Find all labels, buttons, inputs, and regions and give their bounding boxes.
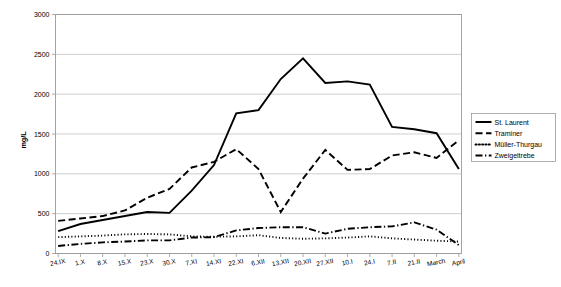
- y-tick-label: 500: [38, 210, 50, 217]
- y-tick-label: 2500: [34, 51, 50, 58]
- x-tick-label: 13.XII: [271, 257, 289, 267]
- x-tick-label: 21.II: [407, 257, 421, 266]
- x-tick-label: 27.XII: [316, 257, 334, 267]
- x-tick-label: 30.X: [162, 257, 177, 267]
- x-tick-label: 6.XII: [251, 257, 266, 266]
- line-chart: 050010001500200025003000 24.IX1.X8.X15.X…: [0, 0, 561, 287]
- chart-container: 050010001500200025003000 24.IX1.X8.X15.X…: [0, 0, 561, 287]
- x-tick-label: 14.XI: [205, 257, 222, 267]
- y-tick-label: 2000: [34, 91, 50, 98]
- x-tick-label: 23.X: [139, 257, 154, 267]
- x-tick-label: 8.X: [97, 258, 109, 267]
- x-tick-label: 10.I: [341, 258, 353, 267]
- legend-label-m-ller-thurgau: Müller-Thurgau: [495, 141, 543, 149]
- y-axis-title-label: mg/L: [19, 131, 28, 149]
- x-tick-label: 1.X: [74, 258, 86, 267]
- chart-legend: St. LaurentTraminerMüller-ThurgauZweigel…: [472, 114, 556, 162]
- y-tick-label: 1500: [34, 131, 50, 138]
- x-tick-label: 20.XII: [293, 257, 311, 267]
- x-axis-labels: 24.IX1.X8.X15.X23.X30.X7.XI14.XI22.XI6.X…: [49, 257, 466, 268]
- x-tick-label: March: [426, 257, 446, 267]
- x-tick-label: 22.XI: [228, 257, 245, 267]
- x-tick-label: 7.XI: [185, 257, 198, 266]
- series-line-m-ller-thurgau: [58, 234, 459, 242]
- x-tick-label: April: [451, 257, 466, 267]
- y-tick-label: 1000: [34, 170, 50, 177]
- y-axis-ticks: 050010001500200025003000: [34, 11, 56, 257]
- legend-label-st-laurent: St. Laurent: [495, 119, 529, 126]
- series-lines: [58, 58, 459, 246]
- series-line-st-laurent: [58, 58, 459, 231]
- x-tick-label: 24.I: [363, 258, 375, 267]
- x-tick-label: 15.X: [117, 257, 132, 267]
- series-line-traminer: [58, 140, 459, 220]
- y-tick-label: 0: [46, 250, 50, 257]
- x-tick-label: 24.IX: [49, 257, 66, 267]
- legend-label-zweigeltrebe: Zweigeltrebe: [495, 152, 535, 160]
- y-axis-title: mg/L: [19, 131, 28, 149]
- legend-label-traminer: Traminer: [495, 130, 523, 137]
- x-axis-ticks: [58, 254, 459, 258]
- x-tick-label: 7.II: [386, 258, 396, 267]
- y-tick-label: 3000: [34, 11, 50, 18]
